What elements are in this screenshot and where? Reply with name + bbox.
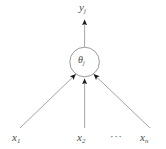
neuron-theta-label: θj xyxy=(78,55,85,66)
diagram-canvas xyxy=(0,0,166,149)
edge-input-x1-to-node xyxy=(20,75,76,129)
input-label-x2-subscript: 2 xyxy=(82,137,85,144)
edge-input-xn-to-node xyxy=(94,75,150,129)
input-label-xn-subscript: n xyxy=(145,137,148,144)
output-label: yj xyxy=(79,2,86,15)
output-label-subscript: j xyxy=(84,7,86,14)
input-label-xn: xn xyxy=(140,132,148,145)
neuron-theta-subscript: j xyxy=(83,59,85,66)
input-label-x1-subscript: 1 xyxy=(17,137,20,144)
input-label-x2: x2 xyxy=(77,132,85,145)
input-ellipsis: ··· xyxy=(110,131,123,142)
input-label-x1: x1 xyxy=(12,132,20,145)
neuron-diagram-figure: yj θj x1 x2 ··· xn xyxy=(0,0,166,149)
